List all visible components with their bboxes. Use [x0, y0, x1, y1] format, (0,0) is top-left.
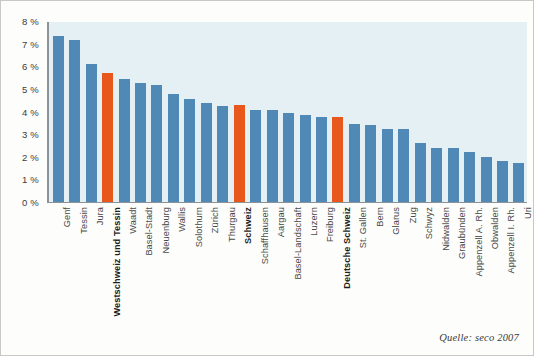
- bar-graub-nden[interactable]: [448, 148, 459, 203]
- bar-slot: [66, 22, 82, 203]
- x-label-slot: Uri: [511, 204, 527, 314]
- bar-slot: [215, 22, 231, 203]
- x-label-slot: Freiburg: [313, 204, 329, 314]
- bar-z-rich[interactable]: [201, 103, 212, 203]
- bar-series: [47, 22, 527, 203]
- bar-slot: [247, 22, 263, 203]
- bar-appenzell-i-rh[interactable]: [497, 161, 508, 203]
- bar-thurgau[interactable]: [217, 106, 228, 203]
- bar-slot: [264, 22, 280, 203]
- bar-uri[interactable]: [513, 163, 524, 203]
- bar-deutsche-schweiz[interactable]: [332, 117, 343, 203]
- y-axis-tick-label: 1 %: [0, 175, 39, 185]
- bar-luzern[interactable]: [300, 115, 311, 203]
- bar-appenzell-a-rh[interactable]: [464, 152, 475, 203]
- x-label-slot: Zug: [396, 204, 412, 314]
- source-note: Quelle: seco 2007: [439, 332, 519, 343]
- bar-nidwalden[interactable]: [431, 148, 442, 203]
- bar-slot: [99, 22, 115, 203]
- bar-aargau[interactable]: [267, 110, 278, 203]
- bar-st-gallen[interactable]: [349, 124, 360, 203]
- bar-wallis[interactable]: [168, 94, 179, 203]
- bar-schaffhausen[interactable]: [250, 110, 261, 203]
- bar-waadt[interactable]: [119, 79, 130, 203]
- bar-slot: [461, 22, 477, 203]
- bar-schwyz[interactable]: [415, 143, 426, 203]
- bar-slot: [198, 22, 214, 203]
- bar-slot: [50, 22, 66, 203]
- x-axis-label-uri: Uri: [523, 207, 533, 219]
- x-label-slot: Appenzell I. Rh.: [494, 204, 510, 314]
- bar-slot: [494, 22, 510, 203]
- bar-slot: [116, 22, 132, 203]
- bar-slot: [511, 22, 527, 203]
- y-axis-tick-label: 0 %: [0, 198, 39, 208]
- x-label-slot: Neuenburg: [149, 204, 165, 314]
- bar-jura[interactable]: [86, 64, 97, 203]
- y-axis-tick-label: 3 %: [0, 130, 39, 140]
- bar-slot: [428, 22, 444, 203]
- x-label-slot: Jura: [83, 204, 99, 314]
- bar-slot: [478, 22, 494, 203]
- x-label-slot: Genf: [50, 204, 66, 314]
- bar-slot: [379, 22, 395, 203]
- x-label-slot: Graubünden: [445, 204, 461, 314]
- bar-solothurn[interactable]: [184, 99, 195, 203]
- y-axis-tick-label: 2 %: [0, 153, 39, 163]
- y-axis-tick-label: 6 %: [0, 62, 39, 72]
- y-axis-line: [47, 22, 49, 203]
- x-label-slot: Schweiz: [231, 204, 247, 314]
- bar-slot: [412, 22, 428, 203]
- chart-figure: 0 %1 %2 %3 %4 %5 %6 %7 %8 % GenfTessinJu…: [0, 0, 534, 356]
- bar-slot: [396, 22, 412, 203]
- bar-freiburg[interactable]: [316, 117, 327, 203]
- bar-slot: [313, 22, 329, 203]
- x-label-slot: Bern: [363, 204, 379, 314]
- x-label-slot: Tessin: [66, 204, 82, 314]
- x-label-slot: Zürich: [198, 204, 214, 314]
- bar-slot: [330, 22, 346, 203]
- x-label-slot: Waadt: [116, 204, 132, 314]
- bar-slot: [149, 22, 165, 203]
- bar-tessin[interactable]: [69, 40, 80, 203]
- bar-obwalden[interactable]: [481, 157, 492, 203]
- bar-slot: [363, 22, 379, 203]
- x-label-slot: Deutsche Schweiz: [330, 204, 346, 314]
- x-label-slot: Thurgau: [215, 204, 231, 314]
- bar-basel-landschaft[interactable]: [283, 113, 294, 204]
- bar-slot: [231, 22, 247, 203]
- x-label-slot: Basel-Landschaft: [280, 204, 296, 314]
- bar-slot: [165, 22, 181, 203]
- bar-slot: [280, 22, 296, 203]
- y-axis-tick-label: 4 %: [0, 108, 39, 118]
- x-label-slot: Aargau: [264, 204, 280, 314]
- bar-slot: [83, 22, 99, 203]
- x-label-slot: Luzern: [297, 204, 313, 314]
- x-label-slot: Schwyz: [412, 204, 428, 314]
- bar-bern[interactable]: [365, 125, 376, 203]
- bar-slot: [132, 22, 148, 203]
- bar-neuenburg[interactable]: [151, 85, 162, 203]
- y-axis-tick-label: 7 %: [0, 40, 39, 50]
- bar-slot: [445, 22, 461, 203]
- bar-glarus[interactable]: [382, 129, 393, 203]
- x-label-slot: Glarus: [379, 204, 395, 314]
- bar-zug[interactable]: [398, 129, 409, 203]
- bar-genf[interactable]: [53, 36, 64, 203]
- x-label-slot: Obwalden: [478, 204, 494, 314]
- y-axis-tick-label: 8 %: [0, 17, 39, 27]
- bar-schweiz[interactable]: [234, 105, 245, 203]
- x-label-slot: Appenzell A. Rh.: [461, 204, 477, 314]
- x-label-slot: Basel-Stadt: [132, 204, 148, 314]
- x-axis-labels: GenfTessinJuraWestschweiz und TessinWaad…: [47, 204, 527, 314]
- x-label-slot: St. Gallen: [346, 204, 362, 314]
- bar-slot: [346, 22, 362, 203]
- x-label-slot: Schaffhausen: [247, 204, 263, 314]
- bar-slot: [297, 22, 313, 203]
- bar-slot: [182, 22, 198, 203]
- x-label-slot: Westschweiz und Tessin: [99, 204, 115, 314]
- y-axis: 0 %1 %2 %3 %4 %5 %6 %7 %8 %: [1, 17, 45, 207]
- bar-westschweiz-und-tessin[interactable]: [102, 73, 113, 203]
- bar-basel-stadt[interactable]: [135, 83, 146, 203]
- plot-area: [47, 22, 527, 203]
